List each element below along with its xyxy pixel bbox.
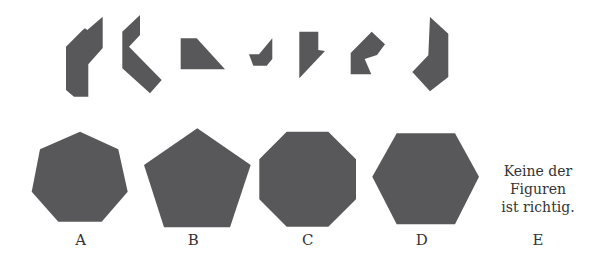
option-d-label[interactable]: D — [416, 233, 428, 248]
puzzle-stage: A B C D Keine der Figuren ist richtig. E — [0, 0, 601, 260]
option-d-hexagon[interactable] — [372, 133, 479, 224]
option-e-line-1: Keine der — [501, 162, 574, 180]
piece-5-shape — [299, 32, 325, 79]
piece-6-shape — [351, 32, 385, 75]
option-e-text[interactable]: Keine der Figuren ist richtig. — [501, 162, 574, 216]
option-e-line-2: Figuren — [501, 180, 574, 198]
answer-options-row — [32, 128, 479, 227]
piece-3-shape — [181, 38, 225, 69]
option-c-octagon[interactable] — [259, 132, 356, 227]
option-a-heptagon[interactable] — [32, 132, 128, 222]
option-c-label[interactable]: C — [302, 233, 313, 248]
option-b-pentagon[interactable] — [144, 128, 251, 227]
piece-7-shape — [412, 17, 448, 91]
option-e-label[interactable]: E — [533, 233, 544, 248]
option-b-label[interactable]: B — [188, 233, 199, 248]
option-e-line-3: ist richtig. — [501, 198, 574, 216]
piece-4-shape — [249, 38, 272, 65]
pieces-row — [66, 15, 448, 97]
figures-canvas — [0, 0, 601, 260]
piece-1-shape — [66, 17, 103, 97]
option-a-label[interactable]: A — [75, 233, 86, 248]
piece-2-shape — [122, 15, 161, 93]
